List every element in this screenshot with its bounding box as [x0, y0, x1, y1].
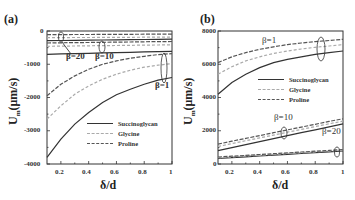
- x-tick-a-1: 0.4: [82, 168, 91, 176]
- x-tick-a-2: 0.6: [110, 168, 119, 176]
- x-tick-b-0: 0.2: [225, 168, 234, 176]
- series-line: [218, 150, 343, 158]
- panel-a: (a) Um(μm/s) 0 -1000 -2000 -3000 -4000 0…: [0, 0, 178, 200]
- x-tick-b-3: 0.8: [309, 168, 318, 176]
- legend-item-succinoglycan-a: Succinoglycan: [87, 118, 158, 128]
- x-tick-b-1: 0.4: [253, 168, 262, 176]
- series-line: [47, 39, 172, 41]
- y-axis-label-b: Um(μm/s): [181, 78, 197, 125]
- y-tick-b-0: 8000: [202, 27, 216, 35]
- y-tick-b-3: 2000: [202, 126, 216, 134]
- x-tick-a-0: 0.2: [55, 168, 64, 176]
- series-line: [47, 45, 172, 47]
- x-tick-a-3: 0.8: [138, 168, 147, 176]
- panel-label-b: (b): [200, 12, 215, 27]
- y-tick-a-2: -2000: [24, 93, 40, 101]
- legend-item-proline-a: Proline: [87, 138, 158, 148]
- series-line: [218, 151, 343, 159]
- panel-b: (b) Um(μm/s) 8000 6000 4000 2000 0 0.2 0…: [177, 0, 355, 200]
- x-axis-label-b: δ/d: [272, 178, 288, 193]
- series-line: [47, 34, 172, 35]
- legend-item-proline-b: Proline: [258, 94, 329, 104]
- annotation-beta20-b: β=20: [322, 126, 341, 136]
- series-line: [47, 64, 172, 120]
- y-tick-b-4: 0: [213, 160, 217, 168]
- legend-item-glycine-b: Glycine: [258, 84, 329, 94]
- y-axis-label-a: Um(μm/s): [6, 78, 22, 125]
- x-tick-a-4: 1: [169, 168, 173, 176]
- legend-item-glycine-a: Glycine: [87, 128, 158, 138]
- annotation-beta10-a: β=10: [95, 51, 114, 61]
- y-tick-a-1: -1000: [24, 60, 40, 68]
- annotation-beta10-b: β=10: [274, 112, 293, 122]
- annotation-beta20-a: β=20: [66, 51, 85, 61]
- annotation-beta1-a: β=1: [155, 80, 169, 90]
- legend-a: Succinoglycan Glycine Proline: [87, 118, 158, 148]
- x-tick-b-2: 0.6: [281, 168, 290, 176]
- x-axis-label-a: δ/d: [100, 178, 116, 193]
- series-line: [218, 45, 343, 75]
- y-tick-b-1: 6000: [202, 60, 216, 68]
- legend-item-succinoglycan-b: Succinoglycan: [258, 74, 329, 84]
- x-tick-b-4: 1: [341, 168, 345, 176]
- y-tick-a-0: 0: [40, 27, 44, 35]
- y-tick-b-2: 4000: [202, 93, 216, 101]
- series-line: [47, 42, 172, 44]
- legend-b: Succinoglycan Glycine Proline: [258, 74, 329, 104]
- y-tick-a-4: -4000: [24, 160, 40, 168]
- annotation-beta1-b: β=1: [262, 35, 276, 45]
- series-line: [47, 37, 172, 38]
- panel-label-a: (a): [4, 12, 18, 27]
- y-tick-a-3: -3000: [24, 126, 40, 134]
- series-line: [218, 150, 343, 158]
